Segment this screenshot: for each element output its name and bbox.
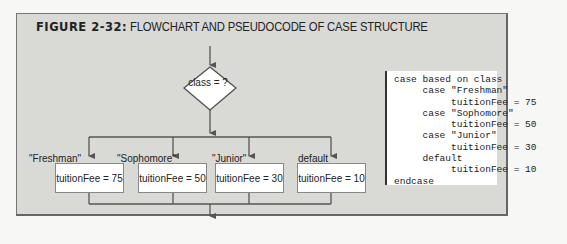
code-line: tuitionFee = 30 (394, 142, 497, 153)
code-line: case "Junior" (394, 130, 497, 141)
decision-label: class = ? (183, 77, 233, 88)
action-box-sophomore: tuitionFee = 50 (138, 163, 207, 193)
code-line: tuitionFee = 50 (394, 119, 497, 130)
code-line: case "Freshman" (394, 85, 497, 96)
decision-diamond (184, 67, 236, 110)
code-line: tuitionFee = 10 (394, 164, 497, 175)
code-line: tuitionFee = 75 (394, 97, 497, 108)
code-line: endcase (394, 176, 497, 187)
action-box-default: tuitionFee = 10 (297, 163, 366, 193)
code-line: case based on class (394, 74, 497, 85)
pseudocode-block: case based on class case "Freshman" tuit… (385, 71, 497, 185)
action-box-freshman: tuitionFee = 75 (55, 163, 124, 193)
action-box-junior: tuitionFee = 30 (215, 163, 284, 193)
code-line: case "Sophomore" (394, 108, 497, 119)
code-line: default (394, 153, 497, 164)
